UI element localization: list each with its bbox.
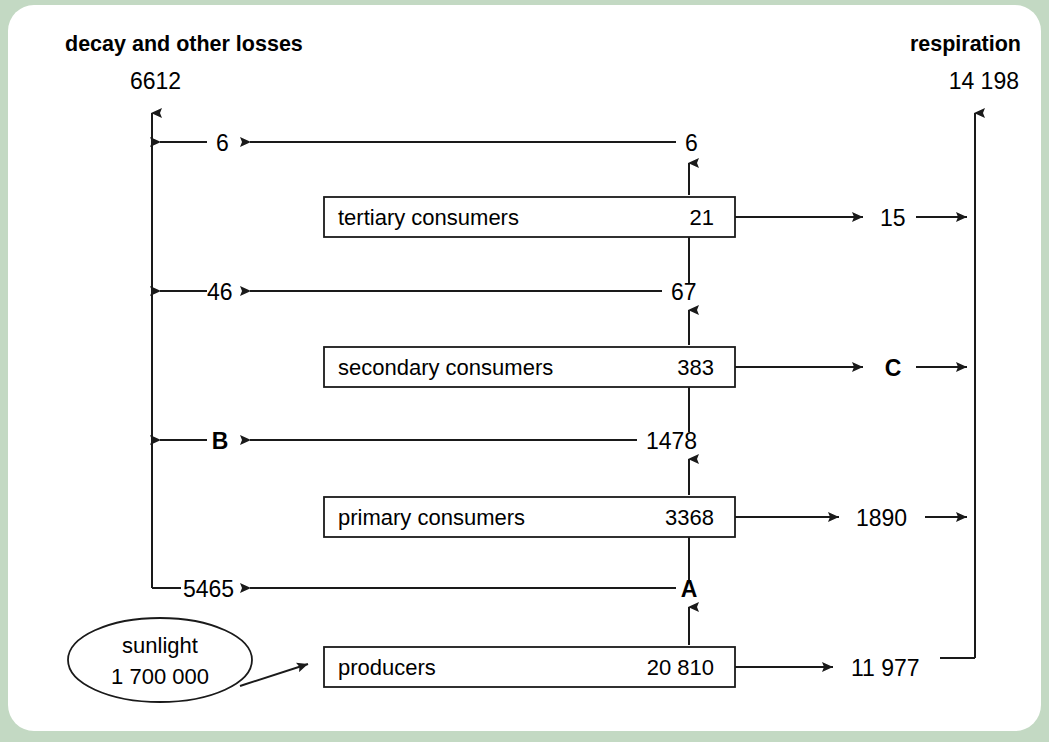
- level-name-producers: producers: [338, 655, 436, 680]
- sunlight-ellipse: [68, 618, 252, 702]
- level-name-tertiary: tertiary consumers: [338, 205, 519, 230]
- respiration-value-secondary: C: [885, 355, 902, 381]
- level-value-secondary: 383: [677, 355, 714, 380]
- level-name-primary: primary consumers: [338, 505, 525, 530]
- decay-header: decay and other losses: [65, 32, 303, 56]
- sunlight-value: 1 700 000: [111, 664, 209, 689]
- transfer-out-secondary: 67: [671, 279, 697, 305]
- respiration-value-primary: 1890: [856, 505, 907, 531]
- respiration-header: respiration: [910, 32, 1021, 56]
- page-background: decay and other losses 6612 respiration …: [0, 0, 1049, 742]
- diagram-card: decay and other losses 6612 respiration …: [8, 5, 1041, 731]
- decay-value-tertiary: 6: [216, 130, 229, 156]
- level-name-secondary: secondary consumers: [338, 355, 553, 380]
- decay-value-secondary: 46: [207, 279, 233, 305]
- transfer-out-tertiary: 6: [685, 130, 698, 156]
- respiration-value-tertiary: 15: [880, 205, 906, 231]
- energy-flow-diagram: decay and other losses 6612 respiration …: [8, 5, 1041, 731]
- respiration-total: 14 198: [949, 68, 1019, 94]
- decay-value-producers: 5465: [183, 576, 234, 602]
- level-value-tertiary: 21: [690, 205, 714, 230]
- level-value-producers: 20 810: [647, 655, 714, 680]
- decay-value-primary: B: [212, 428, 229, 454]
- level-value-primary: 3368: [665, 505, 714, 530]
- decay-total: 6612: [130, 68, 181, 94]
- sunlight-label: sunlight: [122, 633, 198, 658]
- respiration-value-producers: 11 977: [851, 655, 920, 681]
